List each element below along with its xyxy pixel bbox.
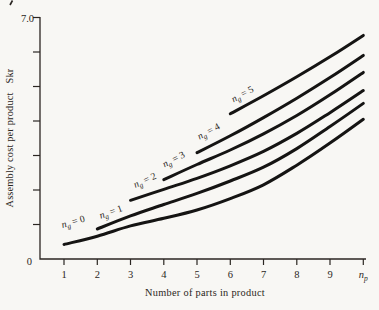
x-tick-label: 2 (95, 269, 100, 280)
curve-ng-5 (230, 35, 363, 113)
y-axis-origin-label: 0 (27, 256, 32, 267)
curve-label-ng-3: ng = 3 (160, 149, 187, 172)
stray-scan-mark (10, 1, 13, 6)
x-tick-label: 8 (294, 269, 299, 280)
x-tick-label: 5 (194, 269, 199, 280)
curve-ng-3 (164, 72, 363, 179)
x-tick-label: 1 (61, 269, 66, 280)
x-tick-label: 3 (128, 269, 133, 280)
x-axis-symbol: np (359, 269, 368, 283)
x-axis-title: Number of parts in product (145, 287, 265, 298)
y-axis-top-label: 7.0 (21, 13, 34, 24)
y-axis-title: Assembly cost per productSkr (4, 68, 15, 207)
assembly-cost-chart: 7.00123456789npNumber of parts in produc… (0, 0, 379, 310)
x-tick-label: 6 (228, 269, 233, 280)
figure-canvas: 7.00123456789npNumber of parts in produc… (0, 0, 379, 310)
curve-label-ng-0: ng = 0 (60, 213, 87, 232)
x-tick-label: 7 (261, 269, 266, 280)
curve-label-ng-2: ng = 2 (132, 170, 159, 192)
x-tick-label: 9 (327, 269, 332, 280)
x-tick-label: 4 (161, 269, 167, 280)
curve-label-ng-4: ng = 4 (195, 121, 222, 144)
